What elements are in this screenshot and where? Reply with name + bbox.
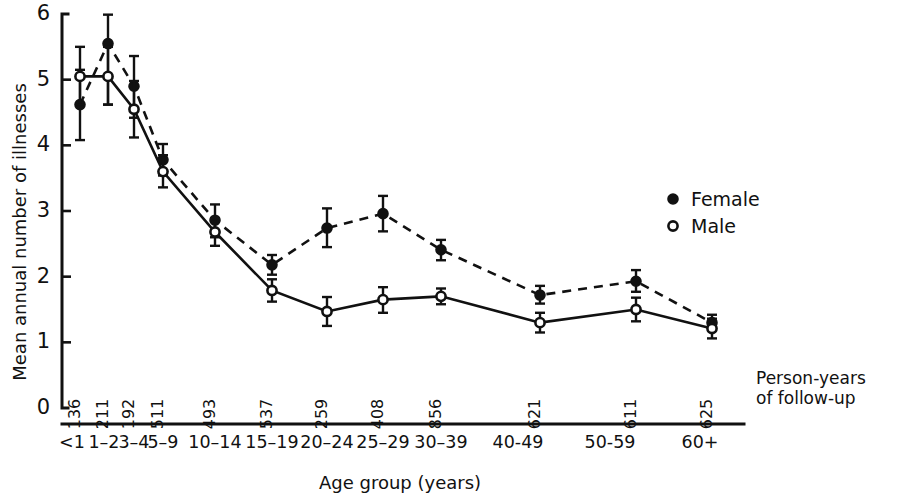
- x-tick-label: 3–4: [118, 432, 149, 452]
- legend-marker-male: [668, 221, 677, 230]
- datapoint-male: [436, 288, 446, 304]
- y-tick-label: 4: [37, 132, 50, 156]
- x-tick-label: <1: [59, 432, 85, 452]
- datapoint-female: [378, 196, 388, 231]
- person-years-value: 511: [148, 399, 167, 430]
- marker-female: [436, 245, 446, 255]
- x-tick-label: 1–2: [88, 432, 119, 452]
- datapoint-female: [322, 208, 332, 247]
- datapoint-male: [631, 298, 641, 322]
- marker-female: [322, 223, 332, 233]
- person-years-value: 625: [697, 399, 716, 430]
- x-tick-labels: <11–23–45–910–1415–1920–2425–2930–3940-4…: [59, 432, 718, 452]
- marker-female: [631, 276, 641, 286]
- marker-male: [631, 305, 640, 314]
- x-tick-label: 15–19: [245, 432, 298, 452]
- data-series: [75, 15, 717, 339]
- y-tick-label: 3: [37, 198, 50, 222]
- legend-label-male: Male: [691, 215, 736, 237]
- marker-female: [267, 260, 277, 270]
- person-years-value: 211: [93, 399, 112, 430]
- marker-female: [378, 209, 388, 219]
- marker-male: [436, 292, 445, 301]
- datapoint-male: [535, 313, 545, 333]
- marker-male: [707, 324, 716, 333]
- marker-male: [322, 307, 331, 316]
- datapoint-male: [103, 47, 113, 105]
- marker-male: [103, 72, 112, 81]
- x-tick-label: 25–29: [356, 432, 409, 452]
- x-tick-label: 20–24: [300, 432, 353, 452]
- datapoint-male: [267, 279, 277, 301]
- y-tick-label: 0: [37, 395, 50, 419]
- x-tick-label: 40-49: [493, 432, 544, 452]
- x-tick-label: 50-59: [585, 432, 636, 452]
- marker-male: [535, 318, 544, 327]
- person-years-value: 136: [65, 399, 84, 430]
- series-line-male: [80, 76, 712, 328]
- marker-male: [75, 72, 84, 81]
- marker-male: [267, 286, 276, 295]
- marker-male: [378, 295, 387, 304]
- datapoint-female: [436, 240, 446, 260]
- marker-female: [535, 290, 545, 300]
- y-tick-label: 6: [37, 1, 50, 25]
- y-axis: 0123456: [37, 1, 71, 419]
- person-years-value: 192: [119, 399, 138, 430]
- x-tick-label: 60+: [682, 432, 719, 452]
- datapoint-female: [535, 286, 545, 304]
- datapoint-male: [75, 47, 85, 105]
- figure-container: 0123456 13621119251149353725940885662161…: [0, 0, 901, 502]
- person-years-value: 621: [525, 399, 544, 430]
- person-years-value: 259: [312, 399, 331, 430]
- person-years-note-line2: of follow-up: [756, 388, 856, 408]
- legend-label-female: Female: [691, 188, 760, 210]
- series-line-female: [80, 44, 712, 323]
- marker-male: [129, 105, 138, 114]
- datapoint-male: [322, 297, 332, 326]
- marker-male: [210, 227, 219, 236]
- person-years-value: 611: [621, 399, 640, 430]
- x-axis-title: Age group (years): [319, 472, 481, 493]
- line-chart: 0123456 13621119251149353725940885662161…: [0, 0, 901, 502]
- y-axis-title: Mean annual number of illnesses: [9, 83, 30, 381]
- y-tick-label: 1: [37, 329, 50, 353]
- legend: FemaleMale: [668, 188, 760, 237]
- y-tick-label: 2: [37, 264, 50, 288]
- datapoint-female: [631, 270, 641, 292]
- person-years-note-line1: Person-years: [756, 368, 866, 388]
- legend-marker-female: [668, 194, 678, 204]
- person-years-value: 408: [368, 399, 387, 430]
- person-years-value: 856: [426, 399, 445, 430]
- y-tick-label: 5: [37, 67, 50, 91]
- person-years-value: 537: [257, 399, 276, 430]
- x-tick-label: 30–39: [414, 432, 467, 452]
- person-years-value: 493: [200, 399, 219, 430]
- datapoint-female: [267, 255, 277, 275]
- x-tick-label: 10–14: [188, 432, 241, 452]
- marker-male: [158, 167, 167, 176]
- x-tick-label: 5–9: [147, 432, 178, 452]
- datapoint-male: [378, 287, 388, 313]
